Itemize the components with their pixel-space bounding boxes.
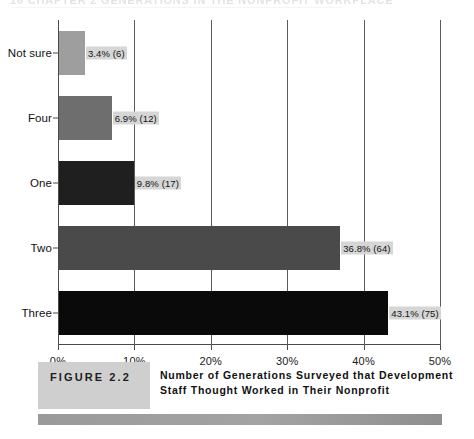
bar-value-label: 6.9% (12) <box>113 111 159 124</box>
y-tick-mark <box>53 52 58 53</box>
y-tick-mark <box>53 312 58 313</box>
bar-chart: 0%10%20%30%40%50% 3.4% (6)6.9% (12)9.8% … <box>0 12 474 360</box>
y-tick-label: Two <box>31 242 52 254</box>
bar-value-label: 43.1% (75) <box>389 306 440 319</box>
page-bottom-rule <box>38 414 442 425</box>
x-tick-mark <box>287 345 288 350</box>
bar-value-label: 36.8% (64) <box>341 241 392 254</box>
bar-value-label: 9.8% (17) <box>135 176 181 189</box>
x-tick-mark <box>58 345 59 350</box>
x-tick-mark <box>364 345 365 350</box>
y-tick-mark <box>53 247 58 248</box>
y-tick-label: One <box>30 177 52 189</box>
y-tick-mark <box>53 182 58 183</box>
bar <box>59 31 85 75</box>
x-tick-mark <box>440 345 441 350</box>
bar <box>59 291 388 335</box>
y-tick-label: Four <box>28 112 52 124</box>
bar-item: 6.9% (12) <box>59 96 441 140</box>
x-tick-mark <box>134 345 135 350</box>
bar <box>59 96 112 140</box>
y-tick-label: Three <box>21 307 52 319</box>
page-header-rule <box>12 7 342 8</box>
figure-label-text: FIGURE 2.2 <box>50 371 131 383</box>
bar <box>59 161 134 205</box>
y-tick-mark <box>53 117 58 118</box>
figure-caption: FIGURE 2.2 Number of Generations Surveye… <box>0 362 474 408</box>
x-axis-line <box>58 344 441 345</box>
page-running-head-text: 16 CHAPTER 2 GENERATIONS IN THE NONPROFI… <box>10 0 393 6</box>
bar-item: 43.1% (75) <box>59 291 441 335</box>
plot-area: 0%10%20%30%40%50% 3.4% (6)6.9% (12)9.8% … <box>58 20 440 345</box>
y-tick-label: Not sure <box>8 47 52 59</box>
x-tick-mark <box>211 345 212 350</box>
bar <box>59 226 340 270</box>
bar-value-label: 3.4% (6) <box>86 46 127 59</box>
bar-item: 9.8% (17) <box>59 161 441 205</box>
bar-item: 3.4% (6) <box>59 31 441 75</box>
page-running-head: 16 CHAPTER 2 GENERATIONS IN THE NONPROFI… <box>0 0 474 9</box>
bar-item: 36.8% (64) <box>59 226 441 270</box>
figure-caption-title: Number of Generations Surveyed that Deve… <box>160 368 460 397</box>
figure-label-badge <box>38 362 150 409</box>
